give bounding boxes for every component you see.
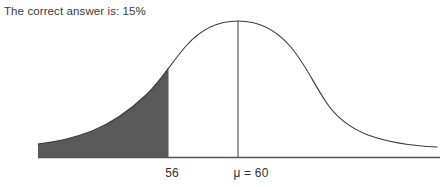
distribution-chart: 56 μ = 60 xyxy=(0,0,447,187)
tick-label-mean: μ = 60 xyxy=(233,166,268,180)
shaded-tail-area xyxy=(38,68,168,157)
normal-distribution-figure: The correct answer is: 15% 56 μ = 60 xyxy=(0,0,447,187)
tick-label-cutoff: 56 xyxy=(165,166,179,180)
